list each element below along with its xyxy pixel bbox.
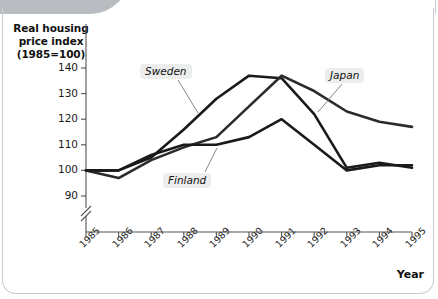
axes-group — [81, 24, 412, 232]
leader-line-finland — [205, 148, 217, 172]
series-label-japan: Japan — [325, 68, 364, 83]
series-label-sweden: Sweden — [140, 64, 192, 79]
series-lines — [86, 76, 412, 178]
figure-root: Real housing price index (1985=100) 140 … — [0, 0, 438, 299]
chart-canvas — [0, 0, 438, 299]
series-label-finland: Finland — [163, 173, 211, 188]
series-line-finland — [86, 119, 412, 170]
x-tick-marks — [86, 232, 412, 238]
y-tick-marks — [81, 68, 86, 196]
series-line-sweden — [86, 76, 412, 171]
leader-line-japan — [318, 84, 342, 112]
leader-line-sweden — [178, 80, 198, 113]
